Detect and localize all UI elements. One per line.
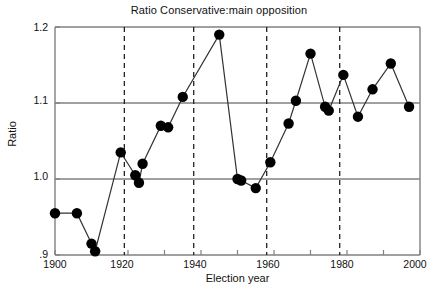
axis-frame bbox=[55, 27, 420, 255]
data-point bbox=[116, 147, 126, 157]
data-point bbox=[291, 96, 301, 106]
data-point bbox=[90, 246, 100, 256]
data-point bbox=[386, 58, 396, 68]
data-point bbox=[72, 208, 82, 218]
data-point bbox=[178, 92, 188, 102]
data-points bbox=[50, 29, 414, 256]
data-point bbox=[353, 111, 363, 121]
vertical-reference-lines bbox=[124, 27, 339, 255]
data-point bbox=[251, 183, 261, 193]
data-line bbox=[55, 35, 409, 252]
data-point bbox=[50, 208, 60, 218]
data-point bbox=[163, 122, 173, 132]
data-point bbox=[134, 178, 144, 188]
data-point bbox=[214, 29, 224, 39]
data-point bbox=[338, 70, 348, 80]
chart-figure: Ratio Conservative:main opposition Ratio… bbox=[0, 0, 438, 294]
data-point bbox=[283, 118, 293, 128]
axis-ticks bbox=[55, 27, 420, 255]
data-point bbox=[265, 157, 275, 167]
data-point bbox=[404, 102, 414, 112]
data-point bbox=[367, 84, 377, 94]
data-point bbox=[324, 105, 334, 115]
data-point bbox=[137, 159, 147, 169]
plot-area bbox=[0, 0, 438, 294]
data-point bbox=[305, 48, 315, 58]
data-point bbox=[236, 175, 246, 185]
